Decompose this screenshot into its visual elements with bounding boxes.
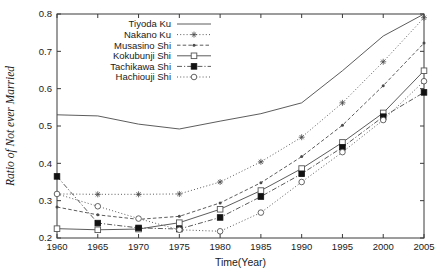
series-nakano-ku [54, 15, 427, 198]
data-point-marker [258, 210, 264, 216]
y-tick-label-0.2: 0.2 [39, 232, 52, 243]
data-point-marker [300, 155, 303, 158]
data-point-marker [54, 174, 60, 180]
data-point-marker [178, 215, 181, 218]
data-point-marker [56, 206, 59, 209]
data-point-marker [54, 226, 60, 232]
x-axis-tick-labels: 1960196519701975198019851990199520002005 [46, 241, 434, 252]
y-tick-label-0.7: 0.7 [39, 46, 52, 57]
data-point-marker [176, 191, 182, 197]
data-point-marker [191, 64, 197, 70]
data-point-marker [95, 220, 101, 226]
data-point-marker [258, 188, 264, 194]
y-axis-title: Ratio of Not ever Married [4, 66, 17, 187]
legend-label-tachikawa-shi: Tachikawa Shi [110, 61, 171, 72]
series-group [54, 14, 427, 234]
data-point-marker [177, 220, 183, 226]
data-point-marker [380, 59, 386, 65]
data-point-marker [191, 53, 197, 59]
legend-label-hachiouji-shi: Hachiouji Shi [116, 71, 171, 82]
series-line [57, 18, 424, 195]
data-point-marker [299, 166, 305, 172]
data-point-marker [217, 206, 223, 212]
y-tick-label-0.4: 0.4 [39, 158, 52, 169]
series-line [57, 71, 424, 230]
data-point-marker [423, 42, 426, 45]
data-point-marker [217, 228, 223, 234]
legend-label-kokubunji-shi: Kokubunji Shi [113, 50, 171, 61]
data-point-marker [421, 78, 427, 84]
x-tick-label-1965: 1965 [87, 241, 108, 252]
data-point-marker [96, 213, 99, 216]
x-tick-label-2005: 2005 [413, 241, 434, 252]
data-point-marker [421, 68, 427, 74]
data-point-marker [380, 117, 386, 123]
x-tick-label-1975: 1975 [169, 241, 190, 252]
y-tick-label-0.5: 0.5 [39, 120, 52, 131]
data-point-marker [191, 74, 197, 80]
data-point-marker [299, 179, 305, 185]
data-point-marker [193, 44, 196, 47]
data-point-marker [136, 191, 142, 197]
data-point-marker [54, 191, 60, 197]
x-tick-label-2000: 2000 [373, 241, 394, 252]
data-point-marker [259, 181, 262, 184]
data-point-marker [217, 179, 223, 185]
series-line [57, 81, 424, 231]
data-point-marker [95, 227, 101, 233]
y-axis-tick-labels: 0.20.30.40.50.60.70.8 [39, 8, 52, 243]
x-tick-label-1970: 1970 [128, 241, 149, 252]
data-point-marker [340, 149, 346, 155]
y-tick-label-0.3: 0.3 [39, 195, 52, 206]
series-tachikawa-shi [54, 90, 427, 232]
line-chart-canvas: 1960196519701975198019851990199520002005… [0, 0, 441, 277]
legend-label-tiyoda-ku: Tiyoda Ku [129, 18, 171, 29]
x-axis-title: Time(Year) [215, 256, 266, 268]
series-line [57, 92, 424, 229]
data-point-marker [258, 194, 264, 200]
x-tick-label-1990: 1990 [291, 241, 312, 252]
data-point-marker [382, 84, 385, 87]
series-kokubunji-shi [54, 68, 427, 233]
data-point-marker [136, 216, 142, 222]
y-tick-label-0.8: 0.8 [39, 8, 52, 19]
data-point-marker [421, 90, 427, 96]
y-tick-label-0.6: 0.6 [39, 83, 52, 94]
data-point-marker [299, 171, 305, 177]
data-point-marker [339, 100, 345, 106]
data-point-marker [191, 32, 197, 38]
data-point-marker [258, 159, 264, 165]
x-tick-label-1980: 1980 [210, 241, 231, 252]
data-point-marker [95, 203, 101, 209]
data-point-marker [341, 124, 344, 127]
data-point-marker [136, 225, 142, 231]
data-point-marker [217, 215, 223, 221]
data-point-marker [177, 227, 183, 233]
legend-label-nakano-ku: Nakano Ku [124, 29, 171, 40]
data-point-marker [299, 134, 305, 140]
x-tick-label-1985: 1985 [250, 241, 271, 252]
legend-label-musasino-shi: Musasino Shi [114, 40, 171, 51]
series-hachiouji-shi [54, 78, 427, 234]
data-point-marker [95, 191, 101, 197]
legend: Tiyoda KuNakano KuMusasino ShiKokubunji … [110, 18, 211, 82]
data-point-marker [219, 201, 222, 204]
data-point-marker [421, 15, 427, 21]
chart-figure: 1960196519701975198019851990199520002005… [0, 0, 441, 277]
x-tick-label-1995: 1995 [332, 241, 353, 252]
